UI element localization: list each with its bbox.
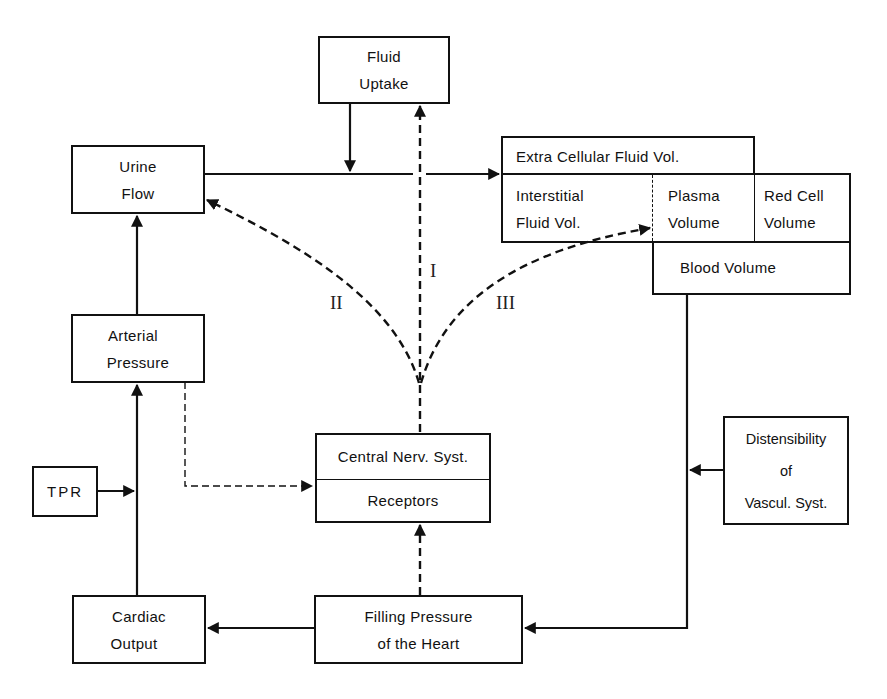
central-nerv-label: Central Nerv. Syst. <box>317 435 489 479</box>
cardiac-output-box: Cardiac Output <box>72 595 206 664</box>
blood-to-filling-arrow <box>525 294 687 628</box>
pathway-three-arrow <box>421 228 650 383</box>
urine-flow-line1: Urine <box>119 153 156 180</box>
blood-volume-box: Blood Volume <box>652 241 851 295</box>
arterial-to-receptors-arrow <box>185 382 312 486</box>
receptors-label: Receptors <box>317 480 489 521</box>
pathway-two-arrow <box>207 200 419 383</box>
pathway-label-two: II <box>330 292 343 314</box>
pathway-label-three: III <box>496 292 515 314</box>
distensibility-line2: of <box>780 455 792 487</box>
cns-receptors-box: Central Nerv. Syst. Receptors <box>315 433 491 523</box>
fluid-uptake-line2: Uptake <box>359 70 408 97</box>
filling-pressure-box: Filling Pressure of the Heart <box>314 595 523 664</box>
tpr-label: TPR <box>47 478 83 505</box>
arterial-line2: Pressure <box>107 349 169 376</box>
red-cell-line2: Volume <box>764 209 824 236</box>
pathway-label-one: I <box>430 260 436 282</box>
extra-cellular-fluid-box: Extra Cellular Fluid Vol. <box>501 136 755 174</box>
urine-flow-line2: Flow <box>122 180 155 207</box>
plasma-divider-dashed <box>652 175 653 241</box>
blood-volume-label: Blood Volume <box>680 241 776 293</box>
cardiac-line2: Output <box>111 630 158 657</box>
cardiac-line1: Cardiac <box>112 603 166 630</box>
fluid-uptake-line1: Fluid <box>367 43 401 70</box>
distensibility-box: Distensibility of Vascul. Syst. <box>723 416 849 525</box>
interstitial-fluid-cell: Interstitial Fluid Vol. <box>516 178 584 240</box>
red-cell-volume-cell: Red Cell Volume <box>764 178 824 240</box>
arterial-line1: Arterial <box>108 322 158 349</box>
plasma-volume-cell: Plasma Volume <box>668 178 720 240</box>
fluid-uptake-box: Fluid Uptake <box>318 36 450 104</box>
interstitial-line2: Fluid Vol. <box>516 209 584 236</box>
arterial-pressure-box: Arterial Pressure <box>71 314 205 383</box>
plasma-line1: Plasma <box>668 182 720 209</box>
red-cell-line1: Red Cell <box>764 182 824 209</box>
urine-flow-box: Urine Flow <box>71 145 205 214</box>
interstitial-line1: Interstitial <box>516 182 584 209</box>
red-cell-divider <box>754 175 755 241</box>
tpr-box: TPR <box>32 466 98 517</box>
filling-line2: of the Heart <box>378 630 460 657</box>
extra-cellular-label: Extra Cellular Fluid Vol. <box>516 140 679 172</box>
distensibility-line1: Distensibility <box>746 423 827 455</box>
filling-line1: Filling Pressure <box>364 603 472 630</box>
plasma-line2: Volume <box>668 209 720 236</box>
distensibility-line3: Vascul. Syst. <box>745 487 828 519</box>
fluid-compartments-row: Interstitial Fluid Vol. Plasma Volume Re… <box>501 173 851 243</box>
